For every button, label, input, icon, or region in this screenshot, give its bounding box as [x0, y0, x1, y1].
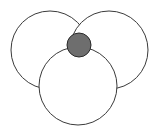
bottom-circle	[39, 47, 117, 125]
center-dot	[67, 33, 91, 57]
overlapping-circles-diagram	[0, 0, 159, 134]
